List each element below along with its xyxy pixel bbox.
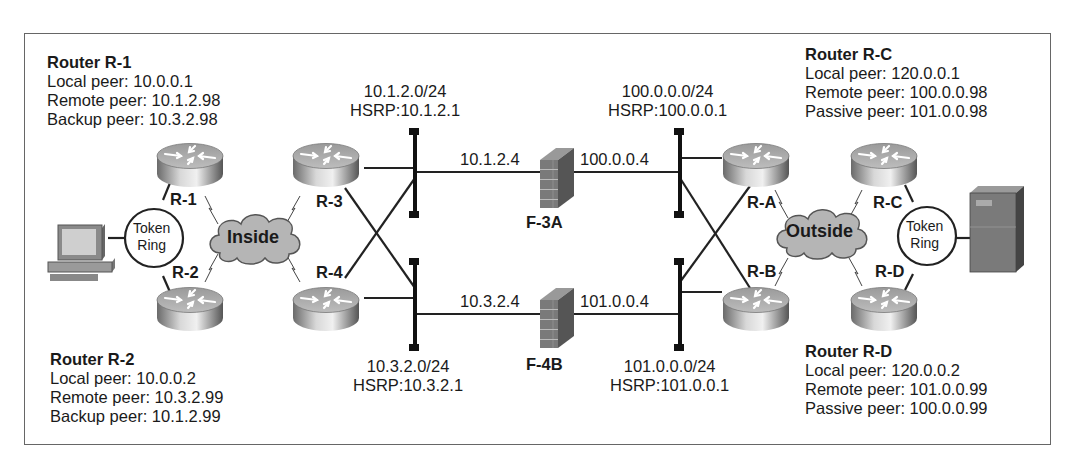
router-r2-backup-peer: Backup peer: 10.1.2.99: [50, 407, 223, 426]
router-r2-title: Router R-2: [50, 350, 223, 369]
link-f4b-outside: 101.0.0.4: [580, 292, 649, 311]
label-ra: R-A: [747, 193, 776, 212]
router-icon-rb: [723, 288, 789, 332]
router-icon-rc: [851, 144, 917, 188]
router-rd-local-peer: Local peer: 120.0.0.2: [805, 361, 988, 380]
router-rc-local-peer: Local peer: 120.0.0.1: [805, 64, 988, 83]
router-r2-remote-peer: Remote peer: 10.3.2.99: [50, 388, 223, 407]
router-r2-info: Router R-2 Local peer: 10.0.0.2 Remote p…: [50, 350, 223, 426]
router-r2-local-peer: Local peer: 10.0.0.2: [50, 369, 223, 388]
segment-bottom-left: 10.3.2.0/24 HSRP:10.3.2.1: [353, 357, 463, 395]
router-icon-rd: [851, 288, 917, 332]
router-r1-remote-peer: Remote peer: 10.1.2.98: [47, 91, 220, 110]
router-r1-title: Router R-1: [47, 53, 220, 72]
router-rd-passive-peer: Passive peer: 100.0.0.99: [805, 399, 988, 418]
router-rd-title: Router R-D: [805, 342, 988, 361]
router-rc-passive-peer: Passive peer: 101.0.0.98: [805, 102, 988, 121]
workstation-icon: [48, 224, 115, 281]
router-rc-title: Router R-C: [805, 45, 988, 64]
label-r1: R-1: [170, 190, 197, 209]
router-icon-r1: [157, 144, 223, 188]
router-icon-r2: [157, 288, 223, 332]
label-inside: Inside: [227, 228, 279, 247]
label-token-ring-right: Token Ring: [906, 218, 943, 252]
link-f3a-outside: 100.0.0.4: [580, 150, 649, 169]
label-rb: R-B: [747, 262, 776, 281]
router-rd-remote-peer: Remote peer: 101.0.0.99: [805, 380, 988, 399]
router-icon-ra: [723, 144, 789, 188]
label-f3a: F-3A: [526, 213, 563, 232]
router-rc-remote-peer: Remote peer: 100.0.0.98: [805, 83, 988, 102]
firewall-icon-f3a: [540, 148, 574, 208]
server-icon: [970, 186, 1024, 272]
label-r2: R-2: [172, 263, 199, 282]
firewall-icon-f4b: [540, 288, 574, 348]
segment-top-left: 10.1.2.0/24 HSRP:10.1.2.1: [350, 82, 460, 120]
label-rd: R-D: [875, 262, 904, 281]
label-f4b: F-4B: [526, 355, 563, 374]
router-rd-info: Router R-D Local peer: 120.0.0.2 Remote …: [805, 342, 988, 418]
label-token-ring-left: Token Ring: [133, 220, 170, 254]
router-r1-local-peer: Local peer: 10.0.0.1: [47, 72, 220, 91]
segment-bottom-right: 101.0.0.0/24 HSRP:101.0.0.1: [610, 357, 729, 395]
label-r4: R-4: [316, 263, 343, 282]
label-outside: Outside: [786, 222, 853, 241]
label-r3: R-3: [316, 192, 343, 211]
link-f4b-inside: 10.3.2.4: [460, 292, 520, 311]
segment-top-right: 100.0.0.0/24 HSRP:100.0.0.1: [608, 82, 727, 120]
router-r1-info: Router R-1 Local peer: 10.0.0.1 Remote p…: [47, 53, 220, 129]
label-rc: R-C: [873, 193, 902, 212]
router-icon-r3: [293, 144, 359, 188]
router-icon-r4: [293, 288, 359, 332]
router-rc-info: Router R-C Local peer: 120.0.0.1 Remote …: [805, 45, 988, 121]
router-r1-backup-peer: Backup peer: 10.3.2.98: [47, 110, 220, 129]
link-f3a-inside: 10.1.2.4: [460, 150, 520, 169]
